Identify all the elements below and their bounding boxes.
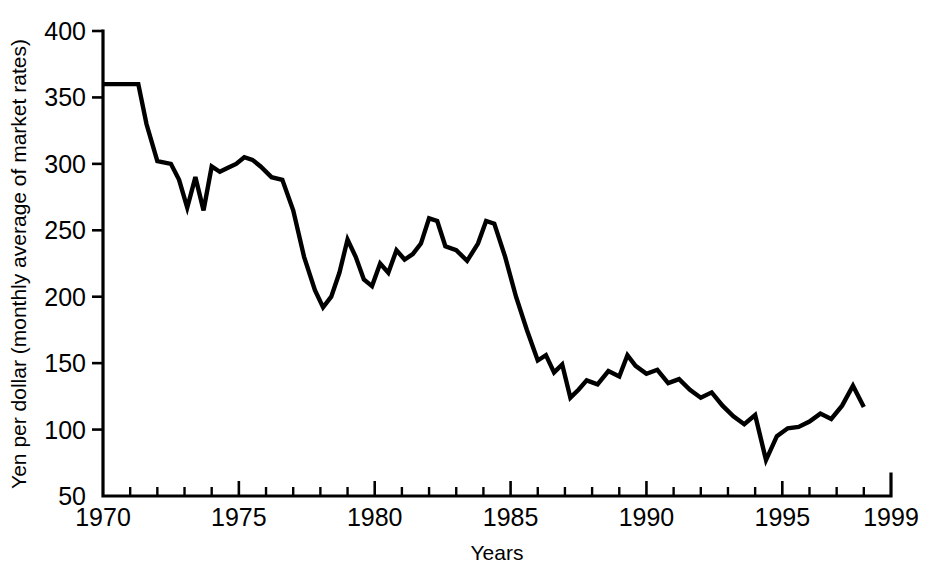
y-axis-title: Yen per dollar (monthly average of marke…: [7, 39, 30, 489]
y-axis-tick-label: 350: [44, 83, 86, 111]
x-axis-tick-label: 1990: [619, 503, 675, 531]
x-axis-tick-label: 1995: [754, 503, 810, 531]
x-axis-tick-label: 1999: [863, 503, 919, 531]
y-axis-tick-label: 400: [44, 17, 86, 45]
x-axis-tick-label: 1980: [347, 503, 403, 531]
y-axis-tick-label: 200: [44, 283, 86, 311]
line-chart: 50100150200250300350400 1970197519801985…: [0, 0, 930, 584]
x-axis-tick-label: 1985: [483, 503, 539, 531]
x-axis-title: Years: [471, 541, 524, 564]
chart-figure: 50100150200250300350400 1970197519801985…: [0, 0, 930, 584]
x-axis-tick-label: 1975: [211, 503, 267, 531]
x-axis-tick-label: 1970: [75, 503, 131, 531]
y-axis-tick-label: 150: [44, 349, 86, 377]
y-axis-tick-label: 100: [44, 416, 86, 444]
y-axis-tick-label: 250: [44, 216, 86, 244]
y-axis-tick-label: 300: [44, 150, 86, 178]
